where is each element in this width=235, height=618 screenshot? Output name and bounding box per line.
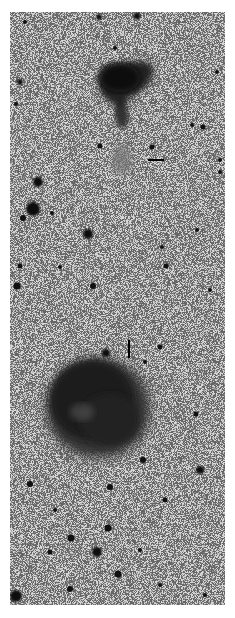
- lower-galaxy: [46, 358, 150, 458]
- astronomical-plate-image: [10, 12, 225, 605]
- upper-faint-extension: [112, 144, 132, 176]
